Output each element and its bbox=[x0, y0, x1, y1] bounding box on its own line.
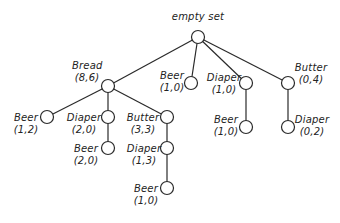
item-name: Beer bbox=[72, 143, 100, 155]
node-butter-top bbox=[282, 77, 295, 90]
item-count: (1,0) bbox=[206, 84, 242, 96]
item-count: (1,2) bbox=[12, 124, 40, 136]
node-diaper-beer bbox=[240, 121, 253, 134]
node-butter-diaper bbox=[282, 121, 295, 134]
item-count: (0,2) bbox=[294, 126, 330, 138]
item-name: Bread bbox=[72, 60, 102, 72]
label-bread-butter-diaper-beer: Beer (1,0) bbox=[132, 183, 160, 207]
item-count: (1,0) bbox=[132, 195, 160, 207]
item-name: Beer bbox=[212, 114, 240, 126]
node-root bbox=[192, 31, 205, 44]
item-name: Beer bbox=[132, 183, 160, 195]
label-butter-top: Butter (0,4) bbox=[294, 62, 328, 86]
item-count: (0,4) bbox=[294, 74, 328, 86]
node-bread-diaper bbox=[102, 111, 115, 124]
item-name: Diaper bbox=[294, 114, 330, 126]
node-bread bbox=[102, 80, 115, 93]
item-name: Butter bbox=[126, 112, 160, 124]
label-beer-top: Beer (1,0) bbox=[158, 70, 186, 94]
label-bread-beer: Beer (1,2) bbox=[12, 112, 40, 136]
node-beer-top bbox=[185, 77, 198, 90]
item-name: Beer bbox=[158, 70, 186, 82]
item-name: Diaper bbox=[206, 72, 242, 84]
item-count: (1,0) bbox=[158, 82, 186, 94]
item-count: (2,0) bbox=[72, 155, 100, 167]
root-label: empty set bbox=[168, 11, 228, 23]
label-diaper-top: Diaper (1,0) bbox=[206, 72, 242, 96]
item-count: (1,0) bbox=[212, 126, 240, 138]
item-name: Beer bbox=[12, 112, 40, 124]
item-count: (3,3) bbox=[126, 124, 160, 136]
root-label-text: empty set bbox=[168, 11, 228, 23]
label-diaper-beer: Beer (1,0) bbox=[212, 114, 240, 138]
label-butter-diaper: Diaper (0,2) bbox=[294, 114, 330, 138]
item-count: (2,0) bbox=[66, 124, 102, 136]
tree-diagram bbox=[0, 0, 340, 223]
item-name: Diaper bbox=[126, 143, 162, 155]
label-bread-butter: Butter (3,3) bbox=[126, 112, 160, 136]
item-name: Butter bbox=[294, 62, 328, 74]
node-bread-beer bbox=[41, 111, 54, 124]
node-bread-butter-diaper bbox=[161, 142, 174, 155]
label-bread-diaper-beer: Beer (2,0) bbox=[72, 143, 100, 167]
label-bread-butter-diaper: Diaper (1,3) bbox=[126, 143, 162, 167]
label-bread-diaper: Diaper (2,0) bbox=[66, 112, 102, 136]
label-bread: Bread (8,6) bbox=[72, 60, 102, 84]
item-count: (8,6) bbox=[72, 72, 102, 84]
item-name: Diaper bbox=[66, 112, 102, 124]
node-bread-butter bbox=[161, 111, 174, 124]
node-bread-diaper-beer bbox=[102, 142, 115, 155]
item-count: (1,3) bbox=[126, 155, 162, 167]
node-bread-butter-diaper-beer bbox=[161, 182, 174, 195]
